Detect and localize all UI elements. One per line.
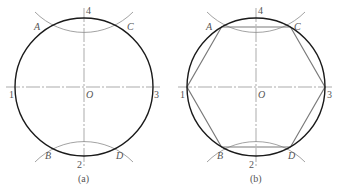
label-2: 2 xyxy=(249,159,254,170)
figure-b: A C B D O 1 2 3 4 (b) xyxy=(178,5,334,185)
label-O: O xyxy=(258,89,265,100)
label-B: B xyxy=(45,150,51,161)
label-C: C xyxy=(127,21,134,32)
label-O: O xyxy=(86,89,93,100)
label-A: A xyxy=(33,21,41,32)
label-4: 4 xyxy=(258,5,263,16)
label-C: C xyxy=(294,21,301,32)
label-B: B xyxy=(217,150,223,161)
label-1: 1 xyxy=(9,89,14,100)
caption-a: (a) xyxy=(78,173,89,185)
label-3: 3 xyxy=(154,89,159,100)
label-4: 4 xyxy=(86,5,91,16)
label-D: D xyxy=(115,150,124,161)
caption-b: (b) xyxy=(250,173,262,185)
hexagon-construction-diagram: A C B D O 1 2 3 4 (a) A C B D O 1 2 3 4 … xyxy=(0,0,338,189)
label-D: D xyxy=(287,150,296,161)
label-2: 2 xyxy=(77,159,82,170)
label-3: 3 xyxy=(327,89,332,100)
label-1: 1 xyxy=(180,89,185,100)
figure-a: A C B D O 1 2 3 4 (a) xyxy=(6,5,162,185)
label-A: A xyxy=(205,21,213,32)
